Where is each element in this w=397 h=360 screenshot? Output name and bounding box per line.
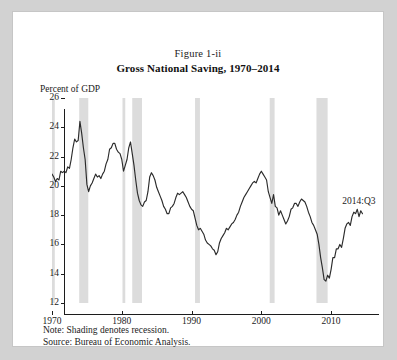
figure-card: Figure 1-ii Gross National Saving, 1970–… [13,12,383,346]
recession-band [132,98,142,303]
figure-page: Figure 1-ii Gross National Saving, 1970–… [0,0,397,360]
y-axis-tick-label: 16 [37,239,59,248]
x-axis-tick-label: 2010 [311,316,351,326]
y-axis-tick-label: 12 [37,298,59,307]
x-axis-tick-label: 2000 [241,316,281,326]
last-observation-annotation: 2014:Q3 [342,196,375,206]
y-axis-tick [61,127,65,128]
y-axis-tick-label: 24 [37,122,59,131]
x-axis-tick [52,311,53,315]
recession-band [316,98,327,303]
y-axis-tick [61,98,65,99]
recession-bands [52,98,328,303]
plot-area [52,98,366,303]
y-axis-tick [61,215,65,216]
recession-band [122,98,125,303]
y-axis-tick [61,244,65,245]
source-text: Source: Bureau of Economic Analysis. [43,337,190,349]
series-path [52,121,363,281]
chart-canvas [52,98,366,303]
y-axis-tick-label: 22 [37,152,59,161]
y-axis-tick [61,186,65,187]
figure-footnotes: Note: Shading denotes recession. Source:… [43,325,190,348]
y-axis-tick [61,274,65,275]
y-axis-tick-label: 26 [37,93,59,102]
note-text: Note: Shading denotes recession. [43,325,190,337]
y-axis-tick [61,303,65,304]
x-axis-tick [331,311,332,315]
saving-series [52,121,363,281]
y-axis-line [64,109,65,315]
y-axis-tick-label: 14 [37,269,59,278]
figure-number: Figure 1-ii [13,48,383,59]
recession-band [195,98,200,303]
x-axis-tick [122,311,123,315]
y-axis-tick-label: 18 [37,210,59,219]
x-axis-tick [261,311,262,315]
y-axis-tick-label: 20 [37,181,59,190]
x-axis-tick [192,311,193,315]
y-axis-tick [61,157,65,158]
figure-title: Gross National Saving, 1970–2014 [13,62,383,74]
